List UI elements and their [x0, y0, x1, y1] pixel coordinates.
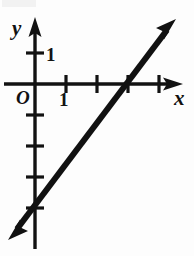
y-axis-label: y — [12, 18, 21, 39]
figure-root: y x O 1 1 — [0, 0, 194, 256]
x-axis-group — [4, 78, 183, 91]
origin-label: O — [16, 88, 30, 107]
x-axis-unit-label: 1 — [59, 90, 69, 109]
x-axis-label: x — [174, 88, 185, 109]
y-axis-unit-label: 1 — [46, 45, 56, 64]
plotted-line — [17, 30, 167, 229]
coordinate-graph — [0, 0, 194, 256]
